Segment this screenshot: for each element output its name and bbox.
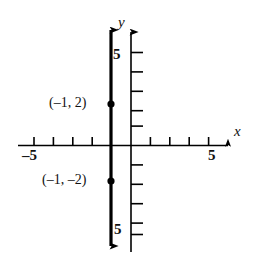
x-axis-ticks-positive bbox=[150, 137, 216, 146]
y-axis-tick-label-negative-five: 5 bbox=[114, 222, 122, 237]
x-axis-ticks-negative bbox=[34, 137, 92, 146]
y-axis-label: y bbox=[118, 15, 125, 30]
x-axis-label: x bbox=[234, 124, 241, 139]
point-label-neg1-2: (–1, 2) bbox=[49, 96, 86, 110]
y-axis bbox=[131, 32, 143, 252]
y-axis-tick-label-positive-five: 5 bbox=[113, 47, 121, 62]
point-label-neg1-neg2: (–1, –2) bbox=[42, 173, 86, 187]
y-axis-ticks-positive bbox=[131, 53, 143, 127]
x-axis-tick-label-positive-five: 5 bbox=[208, 148, 216, 163]
y-axis-ticks-negative bbox=[131, 165, 143, 235]
x-axis-tick-label-negative-five: –5 bbox=[22, 148, 37, 163]
point-marker bbox=[107, 100, 114, 107]
coordinate-plane-figure: y x –5 5 5 5 (–1, 2) (–1, –2) bbox=[0, 0, 269, 264]
graph-canvas bbox=[0, 0, 269, 264]
point-marker bbox=[107, 177, 114, 184]
x-axis bbox=[18, 137, 228, 146]
